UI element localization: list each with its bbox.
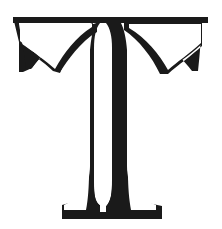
foot-base-slab [62,212,162,219]
top-bar [13,17,208,23]
decorative-initial-t-glyph [0,0,222,229]
stem-inline-gap [95,26,111,207]
initial-capital-page: Decorative capital letter T [0,0,222,229]
